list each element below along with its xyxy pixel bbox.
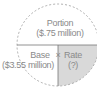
rate-value: (?): [65, 60, 81, 70]
base-value: ($3.55 million): [0, 60, 56, 70]
circle-diagram: [0, 0, 97, 89]
portion-title: Portion: [40, 18, 80, 28]
rate-title: Rate: [63, 50, 83, 60]
portion-value: ($.75 million): [32, 28, 88, 38]
multiply-operator: ×: [54, 50, 62, 60]
base-title: Base: [28, 50, 52, 60]
